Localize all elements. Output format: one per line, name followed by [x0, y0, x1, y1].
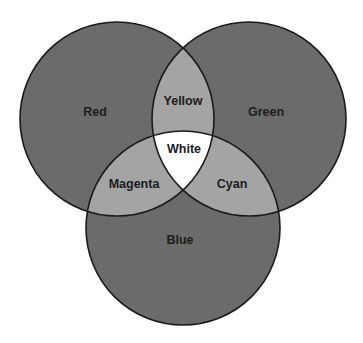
- label-cyan: Cyan: [217, 177, 248, 191]
- label-yellow: Yellow: [164, 94, 203, 108]
- label-magenta: Magenta: [109, 177, 161, 191]
- venn-diagram: Red Green Blue Yellow Magenta Cyan White: [0, 0, 363, 343]
- label-red: Red: [83, 105, 107, 119]
- label-blue: Blue: [166, 233, 193, 247]
- label-white: White: [167, 142, 201, 156]
- label-green: Green: [248, 105, 284, 119]
